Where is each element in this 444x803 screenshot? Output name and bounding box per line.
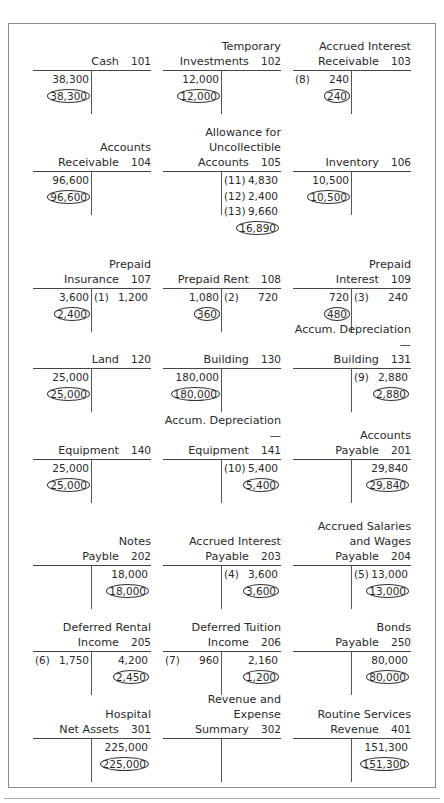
balance-row: 38,300 xyxy=(33,88,91,104)
credit-entry: 151,300 xyxy=(352,740,410,756)
entry-amount: 38,300 xyxy=(52,72,89,88)
balance-row: 5,400 xyxy=(222,477,280,493)
entry-amount: 151,300 xyxy=(365,740,408,756)
credit-side: 151,300151,300 xyxy=(352,740,410,771)
account-number: 140 xyxy=(131,443,151,458)
circled-balance: 25,000 xyxy=(47,387,90,401)
credit-side: (4)3,6003,600 xyxy=(222,567,280,598)
account-title: BondsPayable250 xyxy=(293,620,411,651)
entry-amount: 5,400 xyxy=(248,461,278,477)
debit-entry: (7)960 xyxy=(163,653,221,669)
entry-amount: 13,000 xyxy=(371,567,408,583)
account-title: Allowance forUncollectibleAccounts105 xyxy=(163,125,281,171)
credit-side: (2)720 xyxy=(222,290,280,306)
t-account-divider xyxy=(221,368,222,412)
debit-side: 1,080360 xyxy=(163,290,221,321)
account-title: Accrued Salariesand WagesPayable204 xyxy=(293,519,411,565)
debit-side: 96,60096,600 xyxy=(33,173,91,204)
account-name-line: Investments102 xyxy=(163,54,281,69)
balance-row: 225,000 xyxy=(92,756,150,772)
debit-entry: 10,500 xyxy=(293,173,351,189)
account-name-line: Land120 xyxy=(33,352,151,367)
t-account-divider xyxy=(91,368,92,412)
t-account-divider xyxy=(91,459,92,503)
circled-balance: 151,300 xyxy=(360,757,409,771)
account-name-line: Equipment141 xyxy=(163,443,281,458)
circled-balance: 10,500 xyxy=(307,190,350,204)
circled-balance: 80,000 xyxy=(366,670,409,684)
account-number: 141 xyxy=(261,443,281,458)
entry-amount: 9,660 xyxy=(248,204,278,220)
account-title: Cash101 xyxy=(33,54,151,70)
account-title: PrepaidInterest109 xyxy=(293,257,411,288)
account-name-line: Prepaid Rent108 xyxy=(163,272,281,287)
credit-entry: 225,000 xyxy=(92,740,150,756)
account-name-line: Deferred Tuition xyxy=(163,620,281,635)
credit-entry: 18,000 xyxy=(92,567,150,583)
debit-side: 25,00025,000 xyxy=(33,461,91,492)
account-name-line: Income205 xyxy=(33,635,151,650)
account-name-line: Receivable104 xyxy=(33,155,151,170)
account-name-line: Inventory106 xyxy=(293,155,411,170)
account-name-line: Routine Services xyxy=(293,707,411,722)
account-name-line: Interest109 xyxy=(293,272,411,287)
debit-entry: 1,080 xyxy=(163,290,221,306)
circled-balance: 18,000 xyxy=(106,584,149,598)
entry-reference: (3) xyxy=(354,290,369,306)
circled-balance: 13,000 xyxy=(366,584,409,598)
t-account-top-line xyxy=(33,368,151,369)
account-name-line: Receivable103 xyxy=(293,54,411,69)
credit-entry: (3)240 xyxy=(352,290,410,306)
entry-amount: 2,880 xyxy=(378,370,408,386)
entry-amount: 240 xyxy=(329,72,349,88)
account-number: 107 xyxy=(131,272,151,287)
account-title: PrepaidInsurance107 xyxy=(33,257,151,288)
account-name-line: Prepaid xyxy=(293,257,411,272)
circled-balance: 1,200 xyxy=(243,670,279,684)
debit-side: 180,000180,000 xyxy=(163,370,221,401)
debit-entry: 96,600 xyxy=(33,173,91,189)
debit-side: 25,00025,000 xyxy=(33,370,91,401)
account-title: Accum. Depreciation—Equipment141 xyxy=(163,413,281,459)
balance-row: 25,000 xyxy=(33,386,91,402)
account-name: Accounts xyxy=(198,155,249,170)
credit-entry: 80,000 xyxy=(352,653,410,669)
entry-amount: 4,200 xyxy=(118,653,148,669)
entry-reference: (13) xyxy=(224,204,246,220)
circled-balance: 16,890 xyxy=(236,221,279,235)
circled-balance: 240 xyxy=(324,89,350,103)
account-title: AccountsPayable201 xyxy=(293,428,411,459)
entry-reference: (2) xyxy=(224,290,239,306)
t-account-top-line xyxy=(293,288,411,289)
debit-side: 3,6002,400 xyxy=(33,290,91,321)
t-account-top-line xyxy=(163,565,281,566)
entry-amount: 2,160 xyxy=(248,653,278,669)
account-name: Land xyxy=(92,352,119,367)
account-name: Equipment xyxy=(58,443,119,458)
circled-balance: 225,000 xyxy=(100,757,149,771)
t-account-top-line xyxy=(163,171,281,172)
account-number: 101 xyxy=(131,54,151,69)
debit-side: (8)240240 xyxy=(293,72,351,103)
account-title: HospitalNet Assets301 xyxy=(33,707,151,738)
account-name-line: Revenue and Expense xyxy=(163,692,281,722)
account-name: Receivable xyxy=(58,155,119,170)
account-number: 205 xyxy=(131,635,151,650)
debit-entry: 3,600 xyxy=(33,290,91,306)
account-title: Revenue and ExpenseSummary302 xyxy=(163,692,281,738)
account-number: 250 xyxy=(391,635,411,650)
entry-reference: (6) xyxy=(35,653,50,669)
account-name-line: Prepaid xyxy=(33,257,151,272)
account-name-line: Payable201 xyxy=(293,443,411,458)
account-name: Payable xyxy=(335,549,379,564)
entry-amount: 25,000 xyxy=(52,461,89,477)
balance-row: 16,890 xyxy=(222,220,280,236)
t-account-top-line xyxy=(33,70,151,71)
credit-entry: (13)9,660 xyxy=(222,204,280,220)
t-account-top-line xyxy=(293,651,411,652)
account-number: 130 xyxy=(261,352,281,367)
circled-balance: 180,000 xyxy=(171,387,220,401)
account-title: Building130 xyxy=(163,352,281,368)
balance-row: 96,600 xyxy=(33,189,91,205)
entry-amount: 1,080 xyxy=(189,290,219,306)
